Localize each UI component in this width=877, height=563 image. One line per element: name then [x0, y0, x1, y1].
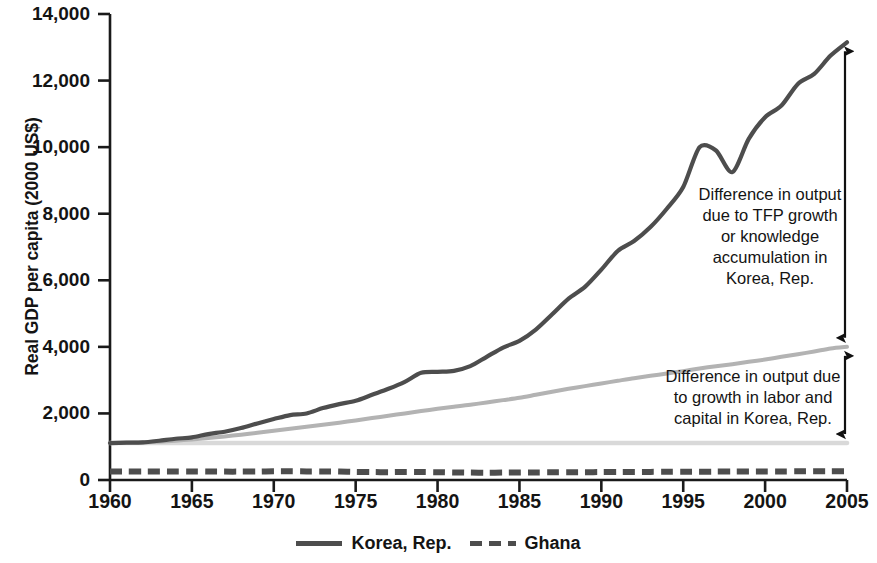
legend-item-ghana: Ghana: [470, 533, 581, 554]
series-line: [110, 471, 847, 473]
legend-item-korea: Korea, Rep.: [296, 533, 451, 554]
annotation-labor-capital: Difference in output due to growth in la…: [660, 366, 846, 429]
annotation-tfp-growth: Difference in output due to TFP growth o…: [694, 184, 846, 289]
chart-legend: Korea, Rep. Ghana: [0, 533, 877, 554]
x-axis-ticks: [110, 480, 847, 492]
y-axis-ticks: [98, 14, 110, 480]
legend-label-korea: Korea, Rep.: [351, 533, 451, 554]
legend-label-ghana: Ghana: [525, 533, 581, 554]
legend-dashed-line-icon: [470, 541, 516, 546]
legend-solid-line-icon: [296, 541, 342, 546]
chart-figure: Real GDP per capita (2000 US$) 02,0004,0…: [0, 0, 877, 563]
